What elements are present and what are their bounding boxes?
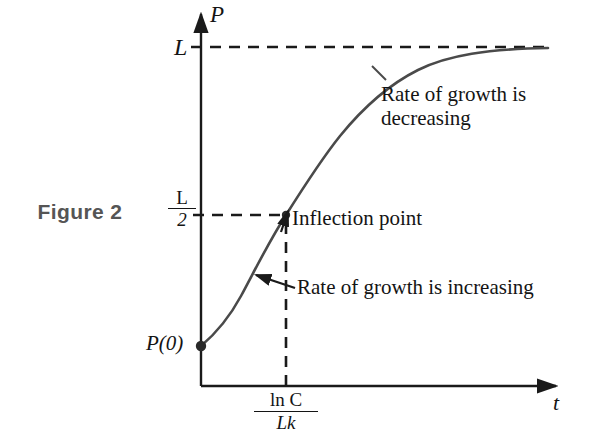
figure-container: Figure 2 P t L L 2 P(0) ln C Lk Rate of …	[0, 0, 593, 442]
annotation-rate-increasing: Rate of growth is increasing	[297, 275, 534, 300]
leader-arrow-rate-increasing	[256, 275, 295, 288]
y-tick-label-half-L: L 2	[168, 188, 196, 229]
y-tick-label-L: L	[174, 34, 187, 61]
fraction-numerator: ln C	[254, 390, 318, 412]
initial-point-dot	[196, 341, 206, 351]
y-axis-label: P	[210, 2, 224, 28]
annotation-rate-decreasing: Rate of growth is decreasing	[381, 83, 571, 130]
fraction-numerator: L	[168, 188, 196, 209]
fraction-denominator: Lk	[254, 412, 318, 433]
fraction-denominator: 2	[168, 209, 196, 229]
annotation-inflection-point: Inflection point	[292, 206, 422, 231]
initial-value-label: P(0)	[146, 331, 183, 356]
figure-caption: Figure 2	[14, 200, 146, 224]
x-axis-label: t	[553, 390, 559, 416]
leader-line-rate-decreasing	[372, 66, 386, 80]
x-tick-label-inflection-time: ln C Lk	[254, 390, 318, 433]
